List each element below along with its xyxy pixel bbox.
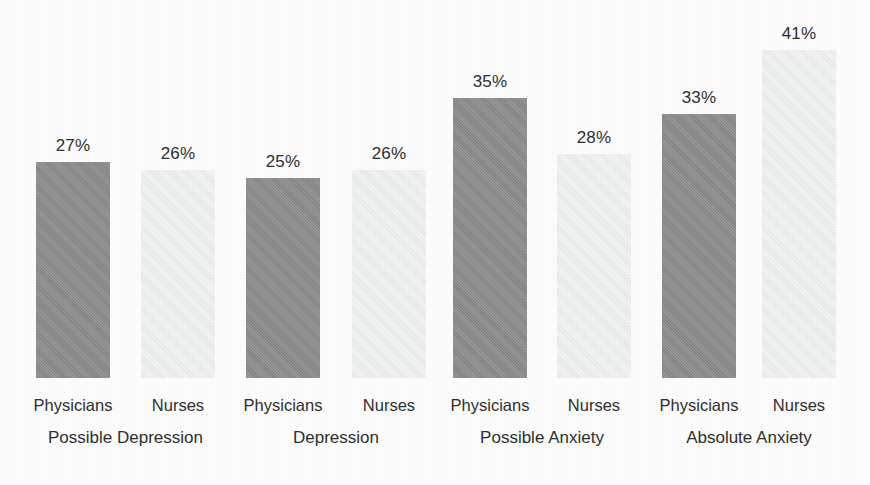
bar-nurses-possible-anxiety: [557, 154, 631, 378]
bar-nurses-depression: [352, 170, 426, 378]
bar-nurses-absolute-anxiety: [762, 50, 836, 378]
bar-chart: 27%26%25%26%35%28%33%41% PhysiciansNurse…: [0, 0, 870, 485]
bar-nurses-possible-depression: [141, 170, 215, 378]
x-tick-label-nurses: Nurses: [736, 396, 862, 415]
bar-value-label: 41%: [742, 24, 856, 44]
bar-value-label: 33%: [642, 88, 756, 108]
bar-physicians-possible-anxiety: [453, 98, 527, 378]
bar-physicians-absolute-anxiety: [662, 114, 736, 378]
bar-physicians-depression: [246, 178, 320, 378]
bar-value-label: 26%: [332, 144, 446, 164]
group-label-absolute-anxiety: Absolute Anxiety: [619, 428, 870, 448]
bar-value-label: 26%: [121, 144, 235, 164]
bar-value-label: 35%: [433, 72, 547, 92]
bar-value-label: 28%: [537, 128, 651, 148]
plot-area: 27%26%25%26%35%28%33%41% PhysiciansNurse…: [0, 0, 870, 485]
bar-value-label: 25%: [226, 152, 340, 172]
bar-value-label: 27%: [16, 136, 130, 156]
bar-physicians-possible-depression: [36, 162, 110, 378]
